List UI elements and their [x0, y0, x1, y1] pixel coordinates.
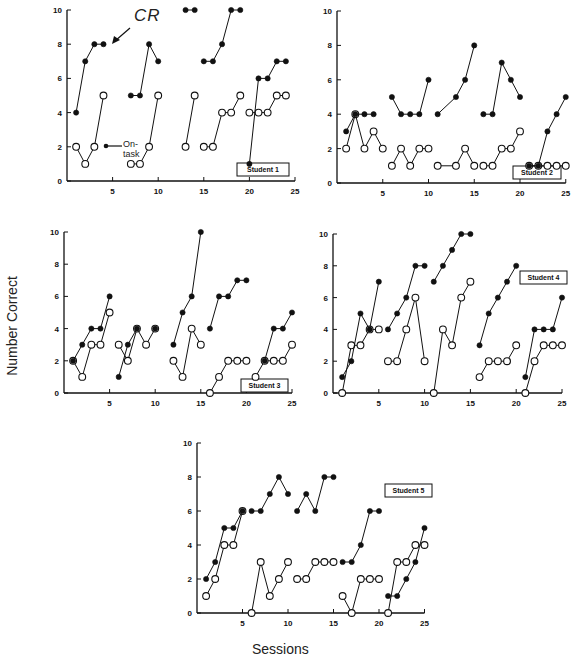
cr-point — [404, 576, 409, 581]
cr-point — [201, 59, 206, 64]
y-tick-label: 10 — [323, 7, 332, 16]
x-tick-label: 5 — [377, 399, 382, 408]
cr-point — [192, 7, 197, 12]
ontask-point — [425, 145, 432, 152]
ontask-point — [225, 357, 232, 364]
ontask-point — [155, 92, 162, 99]
cr-point — [395, 593, 400, 598]
y-tick-label: 4 — [324, 325, 329, 334]
cr-point — [125, 342, 130, 347]
ontask-point — [255, 109, 262, 116]
ontask-point — [188, 325, 195, 332]
ontask-annotation-line1: On- — [123, 139, 140, 149]
y-tick-label: 0 — [58, 177, 63, 186]
ontask-line — [525, 345, 562, 393]
cr-point — [267, 491, 272, 496]
cr-point — [276, 474, 281, 479]
cr-point — [240, 508, 245, 513]
ontask-point — [531, 358, 538, 365]
cr-point — [554, 112, 559, 117]
cr-line — [204, 10, 241, 61]
x-tick-label: 15 — [329, 619, 338, 628]
cr-point — [453, 94, 458, 99]
ontask-point — [416, 145, 423, 152]
cr-point — [331, 474, 336, 479]
cr-point — [216, 294, 221, 299]
cr-point — [349, 559, 354, 564]
ontask-point — [489, 162, 496, 169]
ontask-point — [412, 542, 419, 549]
cr-point — [289, 310, 294, 315]
ontask-point — [273, 92, 280, 99]
ontask-point — [270, 357, 277, 364]
student-label: Student 2 — [521, 169, 553, 176]
y-tick-label: 10 — [183, 439, 192, 448]
y-tick-label: 2 — [324, 357, 329, 366]
cr-point — [74, 110, 79, 115]
y-tick-label: 8 — [328, 41, 333, 50]
student-label: Student 3 — [249, 382, 281, 389]
y-tick-label: 8 — [58, 40, 63, 49]
x-tick-label: 20 — [242, 399, 251, 408]
ontask-point — [562, 162, 569, 169]
y-tick-label: 4 — [328, 110, 333, 119]
cr-point — [340, 375, 345, 380]
y-tick-label: 2 — [188, 575, 193, 584]
x-tick-label: 20 — [512, 399, 521, 408]
x-tick-label: 25 — [288, 399, 297, 408]
ontask-point — [252, 374, 259, 381]
ontask-point — [115, 341, 122, 348]
cr-point — [376, 279, 381, 284]
ontask-point — [421, 358, 428, 365]
y-tick-label: 4 — [58, 109, 63, 118]
ontask-point — [246, 109, 253, 116]
ontask-point — [106, 309, 113, 316]
ontask-point — [82, 161, 89, 168]
cr-point — [229, 7, 234, 12]
ontask-point — [228, 109, 235, 116]
cr-point — [472, 43, 477, 48]
ontask-line — [252, 562, 288, 613]
ontask-point — [430, 390, 437, 397]
cr-point — [156, 59, 161, 64]
y-tick-label: 4 — [55, 325, 60, 334]
cr-point — [362, 112, 367, 117]
cr-point — [171, 342, 176, 347]
cr-point — [490, 112, 495, 117]
y-tick-label: 6 — [324, 294, 329, 303]
ontask-point — [462, 145, 469, 152]
ontask-point — [191, 92, 198, 99]
cr-point — [495, 295, 500, 300]
ontask-line — [204, 96, 241, 147]
ontask-point — [79, 374, 86, 381]
ontask-point — [440, 326, 447, 333]
cr-line — [131, 44, 158, 95]
cr-point — [367, 327, 372, 332]
ontask-point — [203, 593, 210, 600]
ontask-point — [285, 559, 292, 566]
cr-line — [346, 114, 374, 131]
student-label: Student 5 — [393, 487, 425, 494]
ontask-point — [124, 357, 131, 364]
cr-line — [210, 280, 247, 328]
student-label: Student 4 — [528, 274, 560, 281]
cr-point — [376, 508, 381, 513]
cr-line — [525, 298, 562, 378]
cr-point — [146, 42, 151, 47]
ontask-point — [540, 342, 547, 349]
ontask-point — [379, 145, 386, 152]
ontask-point — [361, 145, 368, 152]
cr-point — [183, 7, 188, 12]
y-tick-label: 0 — [55, 389, 60, 398]
ontask-point — [73, 143, 80, 150]
cr-point — [207, 326, 212, 331]
cr-point — [389, 94, 394, 99]
x-tick-label: 25 — [420, 619, 429, 628]
cr-point — [385, 327, 390, 332]
student-5-panel: 0246810510152025Student 5 — [183, 439, 432, 628]
ontask-arrow-dot-icon — [104, 144, 109, 149]
ontask-point — [412, 294, 419, 301]
cr-point — [238, 7, 243, 12]
ontask-point — [476, 374, 483, 381]
x-tick-label: 15 — [196, 399, 205, 408]
